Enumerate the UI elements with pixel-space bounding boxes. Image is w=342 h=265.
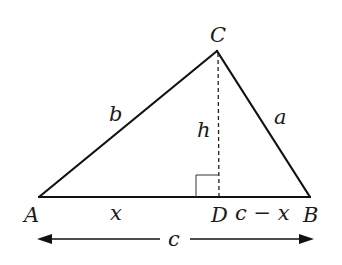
segment-ad-label: x (110, 201, 122, 225)
vertex-b-label: B (302, 203, 318, 227)
right-angle-marker (196, 175, 219, 197)
vertex-a-label: A (22, 203, 39, 227)
side-b-label: b (109, 102, 122, 126)
side-a-line (217, 51, 310, 197)
side-b-line (39, 51, 217, 197)
arrowhead-right-icon (299, 234, 314, 244)
arrowhead-left-icon (37, 234, 52, 244)
dimension-c-label: c (168, 227, 180, 251)
vertex-c-label: C (210, 23, 226, 47)
vertex-d-label: D (210, 203, 228, 227)
side-a-label: a (274, 105, 287, 129)
triangle-diagram: C A D B b a h x c − x c (0, 0, 342, 265)
altitude-h-label: h (197, 118, 211, 142)
segment-db-label: c − x (235, 201, 290, 225)
